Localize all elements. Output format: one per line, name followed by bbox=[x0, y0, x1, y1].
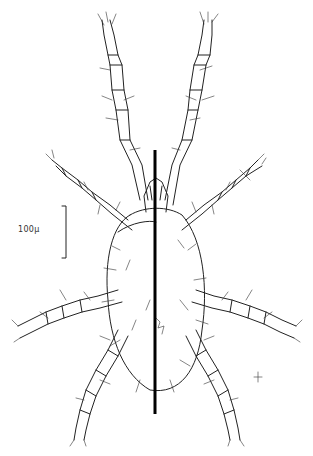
scale-bar-label: 100μ bbox=[18, 225, 40, 234]
cross-mark bbox=[254, 372, 262, 382]
leg-4-right bbox=[186, 330, 244, 446]
leg-4-left bbox=[70, 330, 128, 446]
scale-bar bbox=[62, 206, 66, 258]
leg-3-left bbox=[12, 290, 122, 342]
leg-2-left bbox=[46, 150, 132, 230]
leg-3-right bbox=[192, 290, 302, 342]
leg-1-left bbox=[98, 12, 148, 200]
leg-1-right bbox=[165, 12, 218, 205]
leg-2-right bbox=[182, 154, 266, 230]
mite-illustration: 100μ bbox=[0, 0, 313, 456]
